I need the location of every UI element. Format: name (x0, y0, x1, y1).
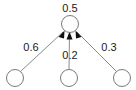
weighted-node-diagram: 0.5 0.6 0.2 0.3 (0, 0, 136, 90)
edge-middle-weight-label: 0.2 (62, 49, 77, 61)
edge-right-arrow-icon (76, 31, 82, 39)
input-node-right[interactable] (114, 70, 131, 87)
edge-left-weight-label: 0.6 (23, 41, 38, 53)
input-node-left[interactable] (7, 70, 24, 87)
edge-right-weight-label: 0.3 (101, 41, 116, 53)
diagram-canvas: 0.5 0.6 0.2 0.3 (0, 0, 136, 90)
edge-left-arrow-icon (59, 31, 65, 39)
input-node-middle[interactable] (61, 70, 78, 87)
output-node[interactable] (62, 16, 79, 33)
output-node-label: 0.5 (62, 2, 77, 14)
